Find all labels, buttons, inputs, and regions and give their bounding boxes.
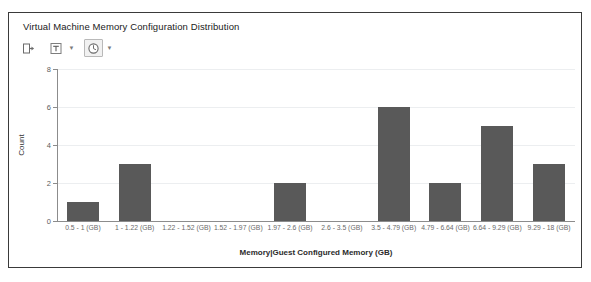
bar-slot bbox=[57, 69, 109, 221]
bar-slot bbox=[471, 69, 523, 221]
y-tick-label: 6 bbox=[47, 103, 51, 112]
x-tick-label: 2.6 - 3.5 (GB) bbox=[316, 223, 368, 232]
toolbar-spacer bbox=[40, 48, 44, 49]
bar-slot bbox=[264, 69, 316, 221]
export-icon bbox=[22, 42, 35, 55]
y-tick-label: 8 bbox=[47, 65, 51, 74]
x-tick-label: 1.97 - 2.6 (GB) bbox=[264, 223, 316, 232]
x-tick-label: 6.64 - 9.29 (GB) bbox=[471, 223, 523, 232]
bar-slot bbox=[109, 69, 161, 221]
text-format-icon-button[interactable] bbox=[46, 39, 65, 57]
x-tick-label: 1.22 - 1.52 (GB) bbox=[161, 223, 213, 232]
bar-slot bbox=[368, 69, 420, 221]
y-tick-label: 2 bbox=[47, 179, 51, 188]
bar[interactable] bbox=[67, 202, 99, 221]
bar[interactable] bbox=[274, 183, 306, 221]
bar-slot bbox=[161, 69, 213, 221]
x-axis-tick-labels: 0.5 - 1 (GB)1 - 1.22 (GB)1.22 - 1.52 (GB… bbox=[57, 223, 575, 249]
chevron-down-icon[interactable]: ▼ bbox=[67, 39, 76, 57]
bar-slot bbox=[212, 69, 264, 221]
export-icon-button[interactable] bbox=[19, 39, 38, 57]
chart-toolbar: ▼ ▼ bbox=[19, 37, 114, 59]
toolbar-spacer bbox=[78, 48, 82, 49]
bar[interactable] bbox=[481, 126, 513, 221]
bar[interactable] bbox=[378, 107, 410, 221]
x-axis-title: Memory|Guest Configured Memory (GB) bbox=[57, 248, 575, 257]
x-tick-label: 1 - 1.22 (GB) bbox=[109, 223, 161, 232]
x-tick-label: 1.52 - 1.97 (GB) bbox=[212, 223, 264, 232]
bar[interactable] bbox=[429, 183, 461, 221]
x-tick-label: 3.5 - 4.79 (GB) bbox=[368, 223, 420, 232]
plot-area: 02468 bbox=[57, 69, 575, 221]
chevron-down-icon[interactable]: ▼ bbox=[105, 39, 114, 57]
page-title: Virtual Machine Memory Configuration Dis… bbox=[23, 21, 239, 32]
bar[interactable] bbox=[533, 164, 565, 221]
bar-slot bbox=[523, 69, 575, 221]
bars-layer bbox=[57, 69, 575, 221]
y-tick-label: 0 bbox=[47, 217, 51, 226]
clock-icon-button[interactable] bbox=[84, 39, 103, 57]
x-tick-label: 0.5 - 1 (GB) bbox=[57, 223, 109, 232]
x-tick-label: 9.29 - 18 (GB) bbox=[523, 223, 575, 232]
y-axis-title: Count bbox=[17, 69, 27, 221]
bar-slot bbox=[316, 69, 368, 221]
x-tick-label: 4.79 - 6.64 (GB) bbox=[420, 223, 472, 232]
y-tick-label: 4 bbox=[47, 141, 51, 150]
bar[interactable] bbox=[119, 164, 151, 221]
clock-icon bbox=[87, 42, 100, 55]
x-axis-line bbox=[57, 221, 575, 222]
y-tick-mark bbox=[53, 221, 57, 222]
bar-chart: Count 02468 0.5 - 1 (GB)1 - 1.22 (GB)1.2… bbox=[9, 57, 583, 267]
text-format-icon bbox=[50, 42, 62, 55]
bar-slot bbox=[420, 69, 472, 221]
report-panel: Virtual Machine Memory Configuration Dis… bbox=[8, 12, 582, 268]
